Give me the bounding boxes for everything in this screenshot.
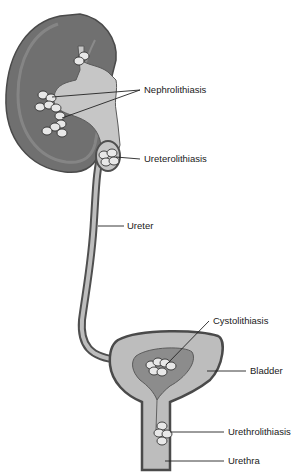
label-bladder: Bladder — [250, 366, 283, 376]
label-urethrolithiasis: Urethrolithiasis — [228, 427, 291, 437]
label-ureter: Ureter — [127, 221, 153, 231]
ureter-tube — [82, 141, 120, 360]
label-cystolithiasis: Cystolithiasis — [213, 316, 268, 326]
bladder — [110, 331, 223, 470]
label-nephrolithiasis: Nephrolithiasis — [144, 85, 206, 95]
label-ureterolithiasis: Ureterolithiasis — [144, 154, 207, 164]
urinary-tract-diagram — [0, 0, 297, 476]
label-urethra: Urethra — [228, 456, 260, 466]
